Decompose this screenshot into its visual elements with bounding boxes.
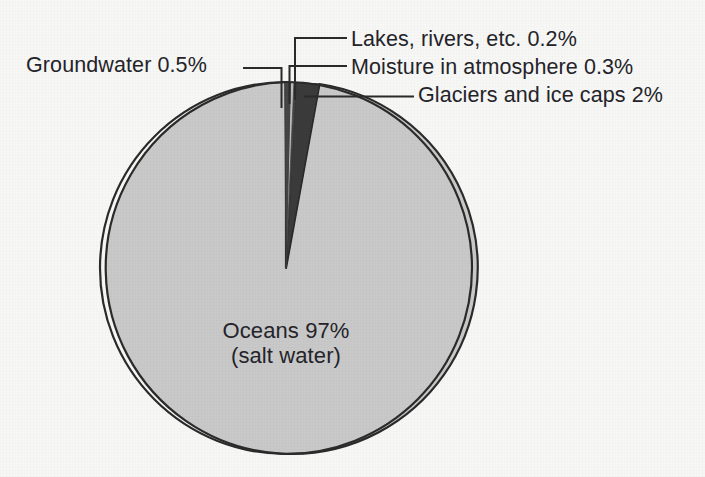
slice-label-oceans: Oceans 97% (salt water) bbox=[223, 318, 350, 368]
slice-label-oceans-line2: (salt water) bbox=[223, 343, 350, 368]
pie-chart: Groundwater 0.5% Lakes, rivers, etc. 0.2… bbox=[0, 0, 705, 477]
slice-label-groundwater: Groundwater 0.5% bbox=[26, 53, 207, 78]
slice-label-oceans-line1: Oceans 97% bbox=[223, 318, 350, 343]
slice-label-glaciers: Glaciers and ice caps 2% bbox=[418, 83, 663, 108]
slice-label-moisture: Moisture in atmosphere 0.3% bbox=[351, 55, 633, 80]
slice-label-lakes: Lakes, rivers, etc. 0.2% bbox=[351, 27, 577, 52]
